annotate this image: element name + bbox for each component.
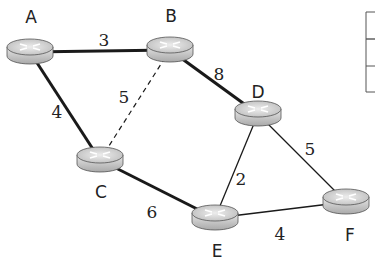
node-label: D <box>251 82 264 102</box>
edge-d-f: 5 <box>258 114 346 202</box>
table-fragment <box>366 12 375 92</box>
edge-weight-label: 5 <box>305 139 316 159</box>
edge-weight-label: 5 <box>119 87 130 107</box>
router-node-a: A <box>7 7 53 64</box>
edge-weight-label: 2 <box>236 169 247 189</box>
node-label: E <box>212 241 223 261</box>
edge-d-e: 2 <box>215 114 258 218</box>
router-node-b: B <box>147 6 193 62</box>
edge-a-c: 4 <box>30 52 100 160</box>
node-label: A <box>25 7 37 27</box>
router-node-c: C <box>77 147 123 202</box>
router-node-d: D <box>235 82 281 126</box>
edge-weight-label: 8 <box>214 64 225 84</box>
router-node-e: E <box>192 205 238 261</box>
node-label: F <box>345 225 355 245</box>
edges-layer: 34586254 <box>30 30 346 244</box>
edge-b-c: 5 <box>100 50 170 160</box>
edge-weight-label: 4 <box>275 224 286 244</box>
edge-weight-label: 6 <box>147 202 158 222</box>
nodes-layer: ABCDEF <box>7 6 369 261</box>
edge-weight-label: 4 <box>52 102 63 122</box>
router-node-f: F <box>323 189 369 245</box>
node-label: C <box>95 182 107 202</box>
edge-weight-label: 3 <box>99 30 110 50</box>
network-diagram: 34586254 ABCDEF <box>0 0 375 264</box>
node-label: B <box>165 6 177 26</box>
